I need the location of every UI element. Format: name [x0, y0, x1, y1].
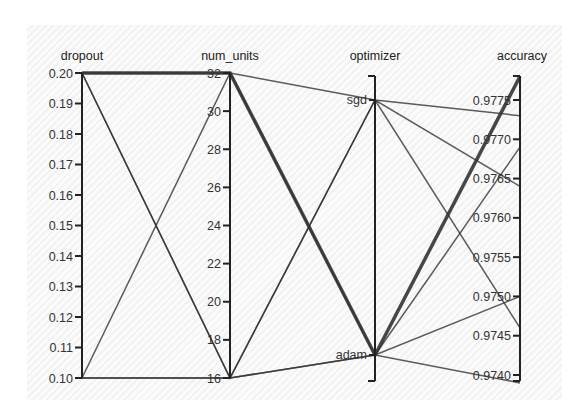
tick-label: 0.13	[49, 280, 73, 294]
tick-label: 0.12	[49, 311, 73, 325]
axis-accuracy[interactable]: accuracy0.97750.97700.97650.97600.97550.…	[473, 49, 548, 383]
tick-label: 0.9755	[473, 251, 511, 265]
tick-label: 0.15	[49, 219, 73, 233]
tick-label: 0.11	[50, 341, 73, 355]
tick-label: 0.10	[49, 372, 73, 386]
axis-title: num_units	[201, 49, 259, 63]
data-line[interactable]	[82, 355, 520, 383]
parallel-coordinates-chart: dropout0.200.190.180.170.160.150.140.130…	[0, 0, 586, 412]
tick-label: 18	[207, 333, 221, 347]
tick-label: 30	[207, 105, 221, 119]
tick-label: 0.14	[49, 250, 73, 264]
tick-label: 22	[207, 257, 221, 271]
tick-label: 16	[207, 372, 221, 386]
axes: dropout0.200.190.180.170.160.150.140.130…	[49, 49, 548, 386]
axis-num-units[interactable]: num_units323028262422201816	[201, 49, 259, 386]
tick-label: 0.9740	[473, 369, 511, 383]
tick-label: 0.9765	[473, 172, 511, 186]
data-line[interactable]	[82, 100, 520, 378]
tick-label: 0.20	[49, 67, 73, 81]
tick-label: adam	[336, 348, 367, 362]
axis-title: optimizer	[350, 49, 401, 63]
tick-label: 0.18	[49, 128, 73, 142]
data-lines	[82, 73, 520, 383]
tick-label: 0.19	[49, 97, 73, 111]
tick-label: 24	[207, 219, 221, 233]
tick-label: 32	[207, 67, 221, 81]
tick-label: 0.16	[49, 189, 73, 203]
tick-label: 0.9745	[473, 329, 511, 343]
tick-label: 28	[207, 143, 221, 157]
tick-label: 20	[207, 295, 221, 309]
tick-label: 0.9750	[473, 290, 511, 304]
tick-label: 26	[207, 181, 221, 195]
axis-title: dropout	[61, 49, 104, 63]
tick-label: 0.17	[49, 158, 73, 172]
tick-label: 0.9770	[473, 133, 511, 147]
tick-label: sgd	[347, 93, 367, 107]
tick-label: 0.9775	[473, 94, 511, 108]
data-line[interactable]	[82, 73, 520, 355]
axis-title: accuracy	[497, 49, 548, 63]
tick-label: 0.9760	[473, 211, 511, 225]
data-line[interactable]	[82, 73, 520, 116]
